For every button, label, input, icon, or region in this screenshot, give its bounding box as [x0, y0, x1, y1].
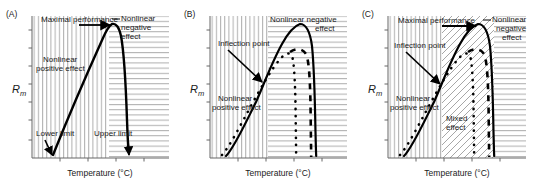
panel-c-nonlinear-negative-label-3: effect [502, 33, 522, 42]
panel-c: (C) Rm Temperature (°C) Maximal performa… [356, 0, 535, 190]
panel-c-nonlinear-positive-region [388, 16, 442, 158]
panel-b-nonlinear-negative-region [268, 16, 347, 158]
panel-c-nonlinear-negative-label-1: Nonlinear [492, 15, 527, 24]
panel-c-nonlinear-positive-label-2: positive effect [390, 103, 440, 112]
panel-c-nonlinear-positive-label-1: Nonlinear [396, 94, 431, 103]
panel-c-nonlinear-negative-label-2: negative [496, 24, 527, 33]
panel-a-nonlinear-positive-label-2: positive effect [36, 64, 86, 73]
panel-b-nonlinear-positive-label-1: Nonlinear [218, 94, 253, 103]
panel-a-y-axis-sub: m [20, 89, 26, 98]
panel-a-upper-limit-arrow [128, 138, 129, 155]
panel-a-nonlinear-negative-label-3: effect [121, 32, 141, 41]
panel-a-tag: (A) [6, 9, 18, 19]
panel-b-nonlinear-negative-label-1: Nonlinear negative [270, 15, 337, 24]
panel-b: (B) Rm Temperature (°C) Nonlinear negati… [178, 0, 356, 190]
panel-c-x-axis-label: Temperature (°C) [424, 168, 489, 178]
panel-c-tag: (C) [362, 9, 374, 19]
panel-c-y-axis-sub: m [376, 89, 382, 98]
panel-a: (A) Rm Temperature (°C) Maximal performa… [0, 0, 178, 190]
panel-a-lower-limit-label: Lower limit [36, 129, 75, 138]
panel-b-nonlinear-positive-label-2: positive effect [212, 103, 262, 112]
panel-c-mixed-effect-region [442, 16, 494, 158]
panel-b-y-axis-sub: m [198, 89, 204, 98]
figure-thermal-performance-curves: (A) Rm Temperature (°C) Maximal performa… [0, 0, 535, 190]
panel-b-nonlinear-negative-label-2: effect [315, 24, 335, 33]
panel-a-x-axis-label: Temperature (°C) [67, 168, 132, 178]
panel-b-tag: (B) [184, 9, 196, 19]
panel-c-mixed-effect-label-1: Mixed [446, 114, 467, 123]
panel-a-nonlinear-negative-label-2: negative [121, 23, 152, 32]
panel-a-nonlinear-positive-label-1: Nonlinear [43, 55, 78, 64]
panel-c-mixed-effect-label-2: effect [446, 123, 466, 132]
panel-a-nonlinear-negative-label-1: Nonlinear [121, 14, 156, 23]
panel-b-x-axis-label: Temperature (°C) [245, 168, 310, 178]
panel-c-inflection-point-label: Inflection point [394, 41, 446, 50]
panel-a-upper-limit-label: Upper limit [94, 129, 133, 138]
panel-a-maximal-performance-label: Maximal performance [41, 15, 118, 24]
panel-b-inflection-point-label: Inflection point [218, 39, 270, 48]
panel-c-maximal-performance-label: Maximal performance [398, 16, 475, 25]
